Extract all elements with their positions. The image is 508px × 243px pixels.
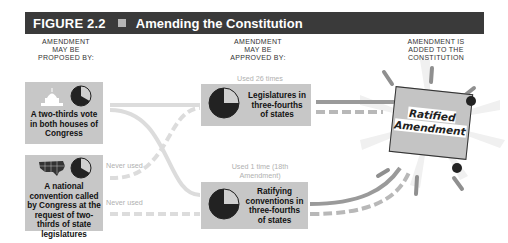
document-rolls xyxy=(0,0,508,243)
